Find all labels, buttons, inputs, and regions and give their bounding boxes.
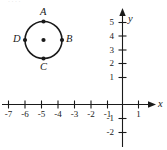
point-c bbox=[41, 56, 45, 60]
y-tick-label--2: -2 bbox=[97, 128, 114, 137]
point-label-b: B bbox=[66, 34, 72, 45]
center-point bbox=[41, 38, 45, 42]
point-a bbox=[41, 19, 45, 23]
x-axis-label: x bbox=[158, 99, 163, 110]
y-axis bbox=[119, 8, 127, 147]
x-axis bbox=[2, 101, 156, 109]
figure-container: · · · · bbox=[0, 0, 167, 150]
y-tick-label-5: 5 bbox=[100, 18, 114, 27]
y-tick-label-1: 1 bbox=[100, 73, 114, 82]
point-label-c: C bbox=[40, 62, 47, 73]
y-tick-label-4: 4 bbox=[100, 32, 114, 41]
x-tick-label-1: 1 bbox=[132, 110, 145, 119]
point-b bbox=[60, 38, 64, 42]
x-tick-label--7: -7 bbox=[0, 110, 17, 119]
x-tick-label--4: -4 bbox=[50, 110, 67, 119]
x-tick-label--3: -3 bbox=[66, 110, 83, 119]
y-tick-label--1: -1 bbox=[97, 114, 114, 123]
figure-graphics bbox=[0, 0, 167, 150]
y-axis-label: y bbox=[128, 14, 133, 25]
point-label-d: D bbox=[13, 34, 21, 45]
y-tick-label-2: 2 bbox=[100, 59, 114, 68]
x-tick-label--6: -6 bbox=[17, 110, 34, 119]
x-tick-label--5: -5 bbox=[33, 110, 50, 119]
y-tick-label-3: 3 bbox=[100, 46, 114, 55]
circle-points bbox=[23, 19, 64, 60]
point-label-a: A bbox=[40, 7, 46, 18]
point-d bbox=[23, 38, 27, 42]
